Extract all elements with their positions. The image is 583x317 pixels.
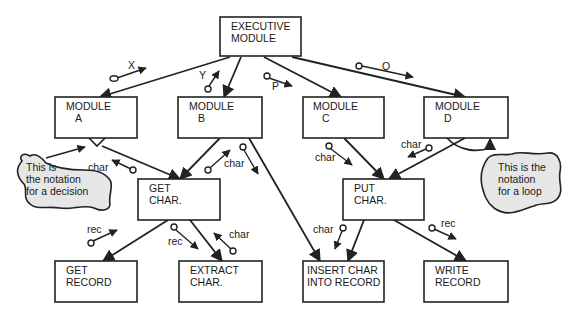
module-label: MODULE xyxy=(189,100,234,112)
couple-char-insert: char xyxy=(313,223,346,249)
module-label: GET xyxy=(66,264,88,276)
module-insert-char: INSERT CHAR INTO RECORD xyxy=(303,261,384,302)
structure-chart: EXECUTIVE MODULE MODULE A MODULE B MODUL… xyxy=(0,0,583,317)
couple-label: Y xyxy=(199,69,206,81)
couple-char-b-up: char xyxy=(205,150,245,173)
module-label: MODULE xyxy=(231,32,276,44)
module-get-char: GET CHAR. xyxy=(138,179,220,220)
couple-label: char xyxy=(229,228,250,240)
loop-note: This is the notation for a loop xyxy=(481,153,560,213)
call-b-to-insertchar xyxy=(249,138,320,261)
couple-label: rec xyxy=(168,235,183,247)
module-label: WRITE xyxy=(435,264,469,276)
module-d: MODULE D xyxy=(424,97,508,138)
module-label: B xyxy=(198,112,205,124)
couple-label: X xyxy=(128,59,135,71)
module-label: EXECUTIVE xyxy=(231,20,291,32)
couple-label: rec xyxy=(441,217,456,229)
note-text: This is xyxy=(26,161,56,173)
couple-p: P xyxy=(264,73,292,92)
couple-y: Y xyxy=(199,69,219,92)
couple-label: P xyxy=(272,80,279,92)
call-getchar-to-getrecord xyxy=(103,220,168,261)
couple-rec-extract: rec xyxy=(168,224,198,249)
couple-label: char xyxy=(224,157,245,169)
loop-icon xyxy=(447,138,492,150)
module-label: MODULE xyxy=(435,100,480,112)
call-c-to-putchar xyxy=(344,138,384,179)
note-text: for a decision xyxy=(26,185,89,197)
module-label: CHAR. xyxy=(354,194,387,206)
module-a: MODULE A xyxy=(55,97,137,138)
module-get-record: GET RECORD xyxy=(55,261,137,302)
call-b-to-getchar xyxy=(180,138,220,179)
module-label: CHAR. xyxy=(149,194,182,206)
module-executive: EXECUTIVE MODULE xyxy=(220,17,301,56)
module-label: INTO RECORD xyxy=(307,276,381,288)
couple-char-c: char xyxy=(315,143,352,165)
module-label: C xyxy=(322,112,330,124)
module-b: MODULE B xyxy=(178,97,262,138)
couple-x: X xyxy=(110,59,146,81)
couple-rec-getrecord: rec xyxy=(87,223,117,246)
note-text: for a loop xyxy=(498,185,542,197)
call-exec-to-b xyxy=(224,57,241,97)
module-boxes: EXECUTIVE MODULE MODULE A MODULE B MODUL… xyxy=(55,17,508,302)
module-c: MODULE C xyxy=(303,97,384,138)
call-a-to-getchar xyxy=(102,146,180,179)
couple-label: char xyxy=(313,223,334,235)
module-label: EXTRACT xyxy=(190,264,240,276)
couple-char-d: char xyxy=(401,138,432,157)
module-label: RECORD xyxy=(435,276,481,288)
couple-rec-write: rec xyxy=(429,217,456,239)
module-label: INSERT CHAR xyxy=(307,264,378,276)
module-label: CHAR. xyxy=(190,276,223,288)
call-exec-to-d xyxy=(292,57,465,97)
couple-label: char xyxy=(401,138,422,150)
note-text: the notation xyxy=(26,173,81,185)
call-putchar-to-insertchar xyxy=(348,220,364,261)
decision-note: This is the notation for a decision xyxy=(18,147,112,210)
couple-char-extract: char xyxy=(214,228,250,254)
note-text: This is the xyxy=(498,161,546,173)
module-put-char: PUT CHAR. xyxy=(343,179,424,220)
module-label: A xyxy=(75,112,82,124)
couple-label: Q xyxy=(382,60,390,72)
module-label: GET xyxy=(149,182,171,194)
call-getchar-to-extractchar xyxy=(190,220,222,261)
module-label: RECORD xyxy=(66,276,112,288)
note-text: notation xyxy=(498,173,536,185)
module-label: PUT xyxy=(354,182,376,194)
couple-label: rec xyxy=(87,223,102,235)
module-extract-char: EXTRACT CHAR. xyxy=(179,261,262,302)
module-write-record: WRITE RECORD xyxy=(424,261,508,302)
module-label: MODULE xyxy=(66,100,111,112)
note-pointer-icon xyxy=(46,147,85,158)
couple-label: char xyxy=(315,151,336,163)
module-label: D xyxy=(444,112,452,124)
module-label: MODULE xyxy=(313,100,358,112)
